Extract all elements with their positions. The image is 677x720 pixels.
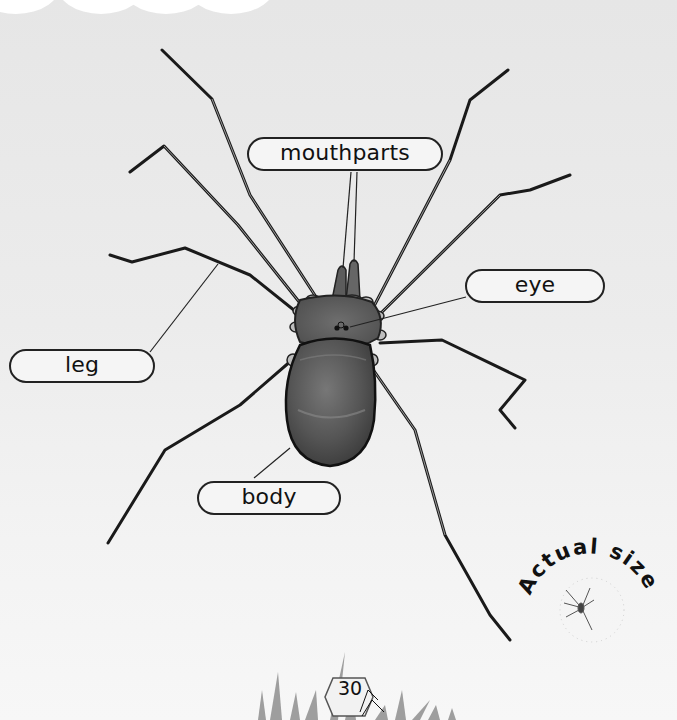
actual-size-text: Actual size xyxy=(513,534,664,598)
label-leg: leg xyxy=(9,349,155,383)
label-mouthparts-text: mouthparts xyxy=(280,142,410,166)
leg-right-4 xyxy=(372,368,510,640)
label-mouthparts: mouthparts xyxy=(247,137,443,171)
label-body-text: body xyxy=(241,486,296,510)
abdomen xyxy=(286,339,375,467)
page-number: 30 xyxy=(330,677,370,699)
label-body: body xyxy=(197,481,341,515)
leg-right-3 xyxy=(380,340,525,428)
label-eye: eye xyxy=(465,269,605,303)
label-leg-text: leg xyxy=(65,354,99,378)
label-eye-text: eye xyxy=(515,274,556,298)
tiny-spider-icon xyxy=(564,588,594,630)
dotted-circle xyxy=(560,578,624,642)
actual-size-badge: Actual size xyxy=(510,520,677,650)
leg-left-1 xyxy=(162,50,318,300)
leg-left-4 xyxy=(108,360,292,543)
